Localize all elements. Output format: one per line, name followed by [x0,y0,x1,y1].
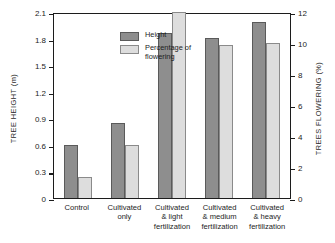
y-axis-left-tick [49,200,54,201]
legend-label: Height [145,31,166,40]
bar-flowering [219,45,233,198]
y-axis-right-tick-label: 8 [298,72,302,80]
legend-label: Percentage of flowering [145,44,191,61]
bar-group [64,14,92,198]
y-axis-left-tick-label: 0 [42,196,46,204]
y-axis-left-tick-label: 1.8 [35,37,46,45]
y-axis-left-tick [49,14,54,15]
y-axis-right-tick-label: 12 [298,10,307,18]
y-axis-left-tick [49,94,54,95]
y-axis-left-tick [49,41,54,42]
y-axis-right-tick [290,138,295,139]
y-axis-right-tick-label: 0 [298,196,302,204]
bar-group [205,14,233,198]
x-axis-category-label: Cultivated & heavy fertilization [244,203,290,231]
y-axis-right-tick [290,169,295,170]
chart-legend: HeightPercentage of flowering [120,31,191,64]
y-axis-right-tick [290,14,295,15]
y-axis-left-tick-label: 1.5 [35,63,46,71]
bar-height [64,145,78,198]
bar-height [111,123,125,198]
y-axis-left-tick-label: 1.2 [35,90,46,98]
y-axis-right-tick-label: 4 [298,134,302,142]
y-axis-left-tick-label: 2.1 [35,10,46,18]
y-axis-left-tick-label: 0.9 [35,116,46,124]
y-axis-right-tick-label: 6 [298,103,302,111]
y-axis-left-tick [49,120,54,121]
y-axis-left-tick-label: 0.6 [35,143,46,151]
y-axis-left-tick [49,173,54,174]
y-axis-right-tick-label: 10 [298,41,307,49]
y-axis-right-tick [290,200,295,201]
x-axis-category-label: Control [54,203,100,231]
y-axis-right-tick-label: 2 [298,165,302,173]
y-axis-right-tick [290,45,295,46]
y-axis-left-tick-label: 0.3 [35,169,46,177]
y-axis-left-tick [49,67,54,68]
legend-item: Height [120,31,191,41]
y-axis-right-title: TREES FLOWERING (%) [314,44,323,174]
legend-swatch [120,45,139,54]
bar-height [252,22,266,198]
bar-height [205,38,219,198]
x-axis-category-label: Cultivated & medium fertilization [197,203,243,231]
y-axis-right-tick [290,76,295,77]
legend-item: Percentage of flowering [120,44,191,61]
bar-chart-figure: TREE HEIGHT (m) TREES FLOWERING (%) 00.3… [0,0,335,243]
bar-flowering [266,43,280,198]
y-axis-left-title: TREE HEIGHT (m) [9,49,18,169]
x-axis-category-label: Cultivated only [101,203,147,231]
y-axis-right-tick [290,107,295,108]
plot-area: 00.30.60.91.21.51.82.1 024681012 HeightP… [53,13,291,199]
bar-group [252,14,280,198]
bar-flowering [78,177,92,198]
x-axis-category-label: Cultivated & light fertilization [149,203,195,231]
legend-swatch [120,32,139,41]
x-axis-category-labels: ControlCultivated onlyCultivated & light… [53,203,291,231]
y-axis-left-tick [49,147,54,148]
bar-flowering [125,145,139,198]
